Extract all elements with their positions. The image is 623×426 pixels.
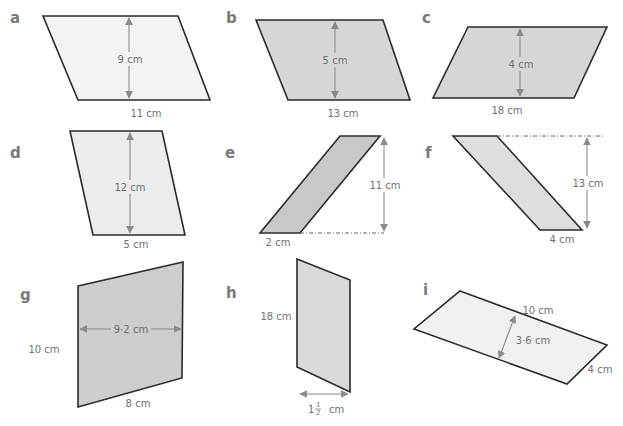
height-label: 3·6 cm [516, 335, 550, 346]
side-label: 10 cm [28, 344, 59, 355]
parallelogram-c: c 4 cm 18 cm [422, 9, 607, 116]
side-label: 18 cm [260, 311, 291, 322]
shape-label: h [226, 284, 237, 302]
parallelogram-g: g 9·2 cm 10 cm 8 cm [20, 262, 183, 409]
base-label: 5 cm [124, 239, 149, 250]
height-label: 4 cm [509, 59, 534, 70]
base-label: 2 cm [266, 237, 291, 248]
svg-text:cm: cm [329, 404, 344, 415]
height-label: 13 cm [572, 178, 603, 189]
base-label-mixed-fraction: 1 1 2 cm [308, 401, 344, 417]
svg-text:1: 1 [316, 401, 320, 409]
shape-label: f [425, 144, 432, 162]
parallelogram-worksheet: a 9 cm 11 cm b 5 cm 13 cm c 4 cm 18 cm d… [0, 0, 623, 426]
shape-label: d [10, 144, 21, 162]
shape-label: g [20, 286, 31, 304]
base-label: 8 cm [126, 398, 151, 409]
base-label: 13 cm [327, 108, 358, 119]
base-label: 4 cm [550, 234, 575, 245]
side-label: 10 cm [522, 305, 553, 316]
shape-label: c [422, 9, 431, 27]
base-label: 18 cm [491, 105, 522, 116]
parallelogram-d: d 12 cm 5 cm [10, 131, 185, 250]
height-label: 12 cm [114, 182, 145, 193]
shape-label: i [423, 281, 428, 299]
base-label: 4 cm [588, 364, 613, 375]
height-label: 11 cm [369, 180, 400, 191]
parallelogram-i: i 10 cm 3·6 cm 4 cm [414, 281, 612, 384]
shape-label: b [226, 9, 237, 27]
shape-label: e [225, 144, 235, 162]
parallelogram-e: e 11 cm 2 cm [225, 136, 401, 248]
svg-text:2: 2 [316, 409, 320, 417]
svg-text:1: 1 [308, 404, 314, 415]
parallelogram-h: h 18 cm 1 1 2 cm [226, 259, 350, 417]
parallelogram-a: a 9 cm 11 cm [10, 9, 210, 119]
base-label: 11 cm [130, 108, 161, 119]
height-label: 9·2 cm [114, 324, 148, 335]
height-label: 9 cm [118, 54, 143, 65]
shape-label: a [10, 9, 20, 27]
height-label: 5 cm [323, 55, 348, 66]
parallelogram-f: f 13 cm 4 cm [425, 136, 605, 245]
parallelogram-b: b 5 cm 13 cm [226, 9, 410, 119]
